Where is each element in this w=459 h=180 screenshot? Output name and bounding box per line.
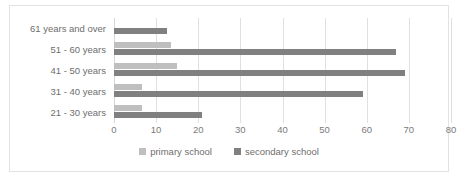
x-tick-label: 0 bbox=[111, 124, 116, 135]
bar-group bbox=[114, 18, 451, 39]
legend-item[interactable]: secondary school bbox=[234, 146, 319, 157]
gridline-80 bbox=[451, 18, 452, 123]
x-axis-tick-labels: 01020304050607080 bbox=[114, 124, 451, 140]
category-label: 41 - 50 years bbox=[51, 60, 106, 81]
plot-area bbox=[114, 18, 451, 123]
bar-primary-school bbox=[114, 105, 142, 111]
legend-label: secondary school bbox=[245, 146, 319, 157]
bar-secondary-school bbox=[114, 112, 202, 118]
bar-group bbox=[114, 102, 451, 123]
x-tick-label: 40 bbox=[277, 124, 288, 135]
chart-container: 21 - 30 years31 - 40 years41 - 50 years5… bbox=[9, 5, 449, 172]
category-label: 21 - 30 years bbox=[51, 102, 106, 123]
x-tick-label: 80 bbox=[446, 124, 457, 135]
legend-label: primary school bbox=[150, 146, 212, 157]
bar-primary-school bbox=[114, 42, 171, 48]
x-tick-label: 70 bbox=[404, 124, 415, 135]
bar-primary-school bbox=[114, 84, 142, 90]
x-tick-label: 60 bbox=[361, 124, 372, 135]
bar-secondary-school bbox=[114, 49, 396, 55]
bar-primary-school bbox=[114, 63, 177, 69]
bar-group bbox=[114, 39, 451, 60]
bar-group bbox=[114, 81, 451, 102]
category-label: 51 - 60 years bbox=[51, 39, 106, 60]
bar-secondary-school bbox=[114, 28, 167, 34]
bar-group bbox=[114, 60, 451, 81]
bar-secondary-school bbox=[114, 91, 363, 97]
x-tick-label: 30 bbox=[235, 124, 246, 135]
category-label: 61 years and over bbox=[30, 18, 106, 39]
legend-item[interactable]: primary school bbox=[139, 146, 212, 157]
y-axis-category-labels: 21 - 30 years31 - 40 years41 - 50 years5… bbox=[10, 18, 110, 123]
chart-legend: primary schoolsecondary school bbox=[10, 146, 448, 157]
legend-swatch-icon bbox=[139, 148, 146, 155]
x-tick-label: 10 bbox=[151, 124, 162, 135]
x-tick-label: 50 bbox=[319, 124, 330, 135]
bar-secondary-school bbox=[114, 70, 405, 76]
x-tick-label: 20 bbox=[193, 124, 204, 135]
category-label: 31 - 40 years bbox=[51, 81, 106, 102]
legend-swatch-icon bbox=[234, 148, 241, 155]
